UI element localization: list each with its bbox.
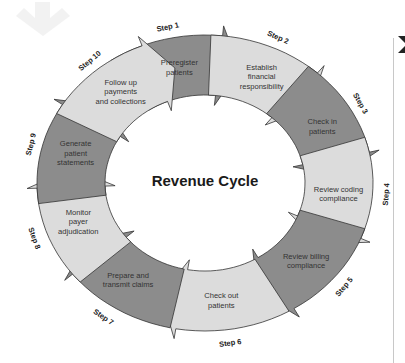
faded-down-arrow-icon [16, 2, 70, 36]
side-panel-marker-icon [398, 46, 405, 53]
arrow-text-step-7: Prepare andtransmit claims [103, 271, 154, 290]
step-label-2: Step 2 [266, 29, 290, 46]
arrow-text-step-6: Check outpatients [204, 291, 239, 310]
side-panel-marker-icon [398, 36, 405, 43]
step-label-8: Step 8 [26, 226, 42, 250]
step-label-6: Step 6 [218, 337, 242, 349]
side-panel-divider [393, 38, 394, 363]
step-label-4: Step 4 [381, 182, 392, 206]
step-label-9: Step 9 [24, 132, 38, 156]
step-label-1: Step 1 [156, 20, 180, 33]
arrow-text-step-5: Review billingcompliance [283, 252, 329, 271]
revenue-cycle-diagram: Step 1Step 2Step 3Step 4Step 5Step 6Step… [0, 0, 405, 363]
step-label-3: Step 3 [351, 91, 370, 115]
arrow-text-step-3: Check inpatients [307, 117, 337, 136]
diagram-title: Revenue Cycle [152, 172, 259, 189]
step-label-5: Step 5 [333, 275, 354, 298]
arrow-text-step-4: Review codingcompliance [314, 185, 363, 204]
step-label-7: Step 7 [92, 307, 116, 327]
